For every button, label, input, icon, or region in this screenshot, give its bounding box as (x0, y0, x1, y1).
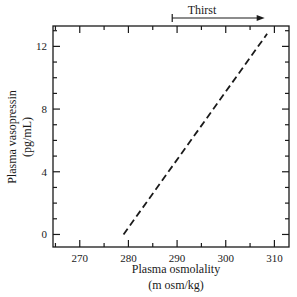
y-tick-label: 8 (42, 103, 48, 115)
x-tick-label: 310 (266, 252, 283, 264)
thirst-annotation (172, 14, 264, 22)
y-axis-title: Plasma vasopressin (5, 90, 19, 184)
data-series (124, 34, 268, 235)
y-tick-label: 4 (42, 166, 48, 178)
y-tick-label: 12 (36, 40, 47, 52)
arrow-head-icon (257, 15, 265, 21)
x-tick-label: 270 (72, 252, 89, 264)
y-axis-units: (pg/mL) (20, 117, 34, 157)
dashed-line (124, 34, 268, 235)
y-tick-label: 0 (42, 228, 48, 240)
x-axis-ticks: 270280290300310 (55, 26, 283, 264)
x-axis-title: Plasma osmolality (132, 262, 220, 276)
plot-frame (53, 26, 289, 247)
x-axis-units: (m osm/kg) (148, 278, 204, 292)
thirst-label: Thirst (188, 3, 217, 17)
y-axis-ticks: 04812 (36, 31, 289, 241)
chart: 270280290300310 04812 Plasma osmolality … (0, 0, 297, 297)
